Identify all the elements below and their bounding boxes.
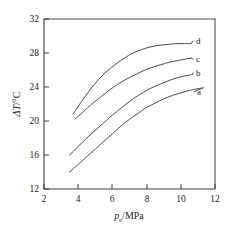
series-label-b: b [196,68,201,78]
x-tick-label-4: 4 [76,194,81,204]
delta-t-vs-pressure-line-chart: 32 28 24 20 16 12 2 4 6 8 10 12 ΔT/°C pe… [0,0,236,230]
x-tick-label-8: 8 [145,194,150,204]
axis-left-bottom [44,19,215,189]
series-label-c: c [196,54,200,64]
y-tick-label-16: 16 [30,150,40,160]
x-axis-title-unit: /MPa [122,210,144,221]
y-tick-label-20: 20 [30,116,40,126]
y-tick-label-12: 12 [30,184,40,194]
plot-axes [44,19,215,189]
x-tick-label-12: 12 [210,194,220,204]
leader-line-d [191,41,193,44]
series-label-a: a [197,87,201,97]
y-axis-title-unit: /°C [11,91,22,105]
svg-text:ΔT/°C: ΔT/°C [11,91,22,117]
x-tick-label-6: 6 [110,194,115,204]
x-tick-label-10: 10 [176,194,186,204]
y-tick-label-24: 24 [30,82,40,92]
svg-text:pe/MPa: pe/MPa [113,210,144,223]
x-axis-ticks [44,184,215,189]
y-tick-label-28: 28 [30,48,40,58]
y-tick-label-32: 32 [30,14,40,24]
series-label-d: d [196,36,201,46]
data-curves [70,44,203,172]
y-axis-ticks [44,19,49,189]
leader-line-c [191,58,193,59]
chart-figure: 32 28 24 20 16 12 2 4 6 8 10 12 ΔT/°C pe… [0,0,236,230]
y-axis-title: ΔT/°C [11,91,22,117]
axis-top-right [44,19,215,189]
series-leader-lines [191,41,203,92]
y-tick-labels: 32 28 24 20 16 12 [30,14,40,194]
x-tick-labels: 2 4 6 8 10 12 [42,194,220,204]
x-axis-title: pe/MPa [113,210,144,223]
series-labels: d c b a [196,36,201,97]
curve-a [70,88,203,172]
curve-c [75,58,191,119]
curve-b [70,74,193,155]
x-tick-label-2: 2 [42,194,47,204]
